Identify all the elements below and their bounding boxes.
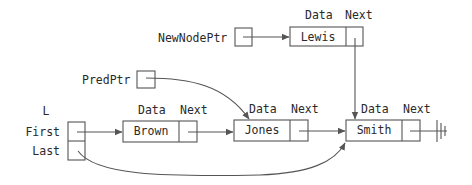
jones-next-header: Next [291,102,319,116]
list-name-label: L [43,104,50,118]
lewis-data-value: Lewis [301,30,336,44]
lewis-data-header: Data [305,8,333,22]
node-brown: Brown [123,121,197,142]
brown-data-value: Brown [134,124,169,138]
first-label: First [25,125,60,139]
smith-next-header: Next [403,102,431,116]
node-jones: Jones [234,120,308,141]
lewis-next-header: Next [345,8,373,22]
brown-next-header: Next [180,103,208,117]
last-label: Last [32,144,60,158]
smith-data-value: Smith [357,123,392,137]
jones-data-value: Jones [245,123,280,137]
pred-ptr-label: PredPtr [82,73,131,87]
jones-data-header: Data [249,102,277,116]
brown-data-header: Data [138,103,166,117]
last-arrow [78,143,345,176]
pred-ptr-box [137,71,155,88]
linked-list-diagram: NewNodePtr Data Next Lewis PredPtr L Fir… [0,0,472,185]
new-node-lewis: Lewis [290,27,363,46]
node-smith: Smith [346,120,420,141]
smith-data-header: Data [361,102,389,116]
new-node-ptr-label: NewNodePtr [158,31,227,45]
